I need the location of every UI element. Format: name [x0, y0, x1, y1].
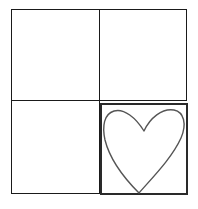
heart-icon [0, 0, 198, 209]
